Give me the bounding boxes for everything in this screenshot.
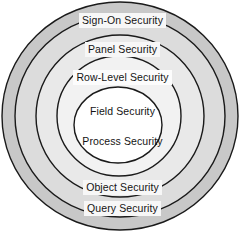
security-onion-diagram: Sign-On Security Panel Security Row-Leve… [0, 0, 245, 244]
label-field-security: Field Security [0, 104, 245, 119]
ring-inner-field-process-security [74, 87, 162, 163]
label-object-security-text: Object Security [83, 180, 162, 195]
label-process-security: Process Security [0, 134, 245, 149]
label-field-security-text: Field Security [87, 104, 158, 119]
label-panel-security-text: Panel Security [85, 42, 160, 57]
label-object-security: Object Security [0, 180, 245, 195]
label-panel-security: Panel Security [0, 42, 245, 57]
label-row-level-security-text: Row-Level Security [73, 70, 171, 85]
label-sign-on-security: Sign-On Security [0, 13, 245, 28]
label-process-security-text: Process Security [79, 134, 165, 149]
label-query-security-text: Query Security [84, 201, 161, 216]
label-query-security: Query Security [0, 201, 245, 216]
label-sign-on-security-text: Sign-On Security [79, 13, 166, 28]
label-row-level-security: Row-Level Security [0, 70, 245, 85]
